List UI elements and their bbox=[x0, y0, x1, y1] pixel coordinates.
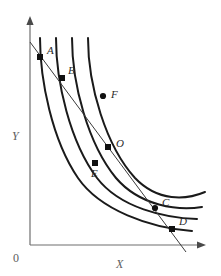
data-point-d bbox=[169, 226, 175, 232]
curves-group bbox=[40, 38, 205, 231]
indifference-curve-2 bbox=[56, 38, 197, 219]
data-point-labels: ABFOECD bbox=[46, 44, 187, 227]
data-point-c bbox=[152, 205, 158, 211]
data-point-f bbox=[100, 93, 106, 99]
data-point-o bbox=[105, 144, 111, 150]
x-axis-label: X bbox=[115, 257, 124, 271]
x-axis-arrow-icon bbox=[197, 241, 206, 248]
y-axis-label: Y bbox=[12, 129, 20, 143]
data-point-label-d: D bbox=[178, 215, 187, 227]
data-point-a bbox=[37, 54, 43, 60]
data-point-e bbox=[92, 160, 98, 166]
indifference-curve-4 bbox=[88, 38, 205, 197]
origin-label: 0 bbox=[13, 251, 19, 265]
data-point-label-f: F bbox=[110, 88, 118, 100]
indifference-curve-3 bbox=[72, 38, 202, 208]
data-point-label-o: O bbox=[116, 137, 124, 149]
indifference-curve-chart: ABFOECD Y X 0 bbox=[0, 0, 221, 276]
y-axis-arrow-icon bbox=[26, 16, 33, 25]
figure-root: ABFOECD Y X 0 bbox=[0, 0, 221, 276]
data-point-label-a: A bbox=[46, 44, 54, 56]
data-point-b bbox=[59, 75, 65, 81]
data-point-label-c: C bbox=[162, 196, 170, 208]
data-point-label-e: E bbox=[90, 167, 98, 179]
data-point-markers bbox=[37, 54, 175, 232]
data-point-label-b: B bbox=[68, 64, 75, 76]
